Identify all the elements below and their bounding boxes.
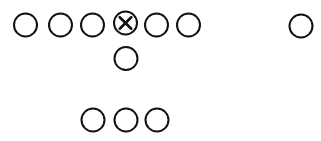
quarterback-marker-circle-icon — [115, 47, 138, 70]
back-marker-circle-icon — [146, 109, 169, 132]
back-marker-circle-icon — [115, 109, 138, 132]
back-marker-circle-icon — [82, 109, 105, 132]
player-marker-circle-icon — [49, 14, 72, 37]
formation-diagram — [0, 0, 321, 141]
wide-player-marker-circle-icon — [290, 15, 313, 38]
center-player-marker-x-icon — [114, 12, 137, 35]
player-marker-circle-icon — [177, 14, 200, 37]
player-marker-circle-icon — [14, 14, 37, 37]
player-marker-circle-icon — [145, 14, 168, 37]
player-marker-circle-icon — [81, 14, 104, 37]
